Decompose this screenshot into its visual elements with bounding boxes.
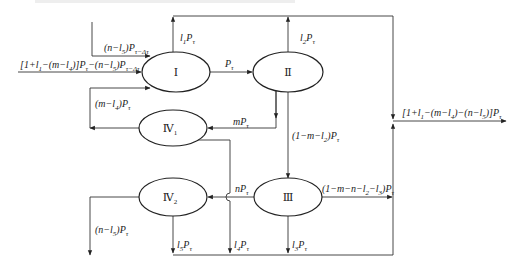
node-III-label: Ⅲ xyxy=(283,191,294,203)
node-IV2: Ⅳ2 xyxy=(139,178,207,216)
node-II: Ⅱ xyxy=(253,52,323,92)
node-III: Ⅲ xyxy=(254,178,322,216)
cropped-caption xyxy=(35,0,295,3)
label-I-to-II: Pτ xyxy=(224,58,234,72)
label-III-out: (1−m−n−l2−l3)Pτ xyxy=(322,183,395,197)
flow-diagram: Ⅰ Ⅱ Ⅳ1 Ⅳ2 Ⅲ [1+l1−(m−l4)]Pτ−(n−l5)Pτ−Δτ … xyxy=(0,0,519,272)
label-final-out: [1+l1−(m−l4)−(n−l5)]Pτ xyxy=(402,107,502,121)
label-II-to-III: (1−m−l2)Pτ xyxy=(292,130,340,144)
node-I-label: Ⅰ xyxy=(174,66,178,78)
node-I: Ⅰ xyxy=(142,52,210,92)
node-IV1: Ⅳ1 xyxy=(139,110,207,146)
label-input-top: (n−l5)Pτ−Δτ xyxy=(104,42,149,56)
label-IV1-loss: l4Pτ xyxy=(234,239,249,253)
label-III-loss: l3Pτ xyxy=(292,239,307,253)
label-I-loss: l1Pτ xyxy=(180,32,195,46)
label-II-loss: l2Pτ xyxy=(300,32,315,46)
label-IV2-loss: l5Pτ xyxy=(177,239,192,253)
node-II-label: Ⅱ xyxy=(284,66,291,78)
label-IV1-to-I: (m−l4)Pτ xyxy=(95,98,131,112)
node-IV2-sub: 2 xyxy=(174,198,178,206)
node-IV1-sub: 1 xyxy=(174,129,178,137)
label-III-to-IV2: nPτ xyxy=(235,183,249,197)
label-IV2-out: (n−l5)Pτ xyxy=(95,224,129,238)
label-input-main: [1+l1−(m−l4)]Pτ−(n−l5)Pτ−Δτ xyxy=(20,59,140,73)
